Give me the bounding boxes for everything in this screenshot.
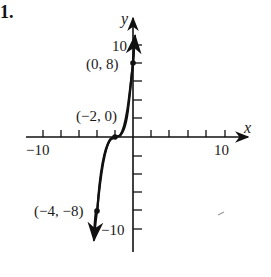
x-axis-label: x: [243, 119, 251, 136]
y-tick-label-10: 10: [112, 38, 127, 54]
point-label-neg2-0: (−2, 0): [76, 108, 117, 125]
point-0-8: [130, 60, 136, 66]
x-ticks: [43, 130, 225, 137]
graph: x y −10 10 10 −10 (0, 8) (−2, 0) (−4, −8…: [0, 0, 271, 277]
x-tick-label-10: 10: [214, 142, 229, 158]
y-tick-label-neg10: −10: [101, 222, 124, 238]
point-label-0-8: (0, 8): [86, 56, 119, 73]
x-tick-label-neg10: −10: [26, 142, 49, 158]
y-axis-label: y: [119, 10, 129, 28]
stray-mark: [218, 212, 224, 215]
point-neg2-0: [112, 134, 118, 140]
point-neg4-neg8: [94, 208, 100, 214]
point-label-neg4-neg8: (−4, −8): [34, 203, 83, 220]
